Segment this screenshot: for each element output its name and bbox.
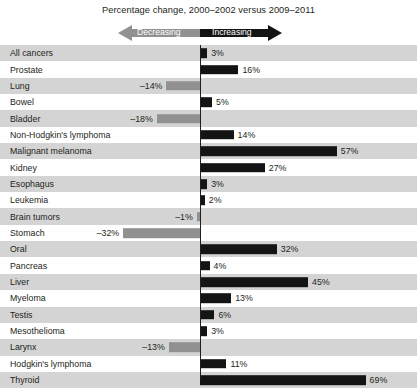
bar-positive [200, 97, 212, 107]
bar-positive [200, 245, 277, 255]
bar-negative [123, 228, 200, 238]
chart-row: Mesothelioma3% [0, 323, 417, 339]
category-label: Larynx [10, 343, 36, 352]
value-label: 69% [370, 376, 388, 385]
category-label: Brain tumors [10, 212, 60, 221]
category-label: Leukemia [10, 196, 48, 205]
value-label: 11% [230, 359, 247, 368]
value-label: 45% [312, 278, 330, 287]
category-label: Oral [10, 245, 27, 254]
category-label: Malignant melanoma [10, 147, 92, 156]
value-label: 13% [235, 294, 253, 303]
bar-positive [200, 130, 234, 140]
chart-row: All cancers3% [0, 45, 417, 61]
chart-row: Esophagus3% [0, 176, 417, 192]
value-label: 6% [218, 310, 231, 319]
chart-row: Prostate16% [0, 61, 417, 77]
category-label: Bladder [10, 114, 40, 123]
category-label: Thyroid [10, 376, 39, 385]
category-label: Hodgkin's lymphoma [10, 359, 91, 368]
category-label: Esophagus [10, 180, 54, 189]
bar-positive [200, 65, 238, 75]
chart-row: Bowel5% [0, 94, 417, 110]
chart-row: Stomach–32% [0, 225, 417, 241]
category-label: Liver [10, 278, 29, 287]
chart-row: Kidney27% [0, 159, 417, 175]
chart-row: Leukemia2% [0, 192, 417, 208]
bar-positive [200, 359, 226, 369]
category-label: Kidney [10, 163, 37, 172]
bar-positive [200, 146, 337, 156]
bar-negative [166, 81, 200, 91]
chart-title: Percentage change, 2000–2002 versus 2009… [0, 5, 417, 15]
category-label: Mesothelioma [10, 327, 65, 336]
value-label: –18% [119, 114, 153, 123]
chart-row: Bladder–18% [0, 110, 417, 126]
chart-row: Oral32% [0, 241, 417, 257]
chart-row: Pancreas4% [0, 257, 417, 273]
category-label: Prostate [10, 65, 43, 74]
category-label: Myeloma [10, 294, 46, 303]
bar-positive [200, 375, 366, 385]
percentage-change-bar-chart: Percentage change, 2000–2002 versus 2009… [0, 0, 417, 390]
value-label: 4% [214, 261, 227, 270]
category-label: Lung [10, 81, 30, 90]
category-label: Pancreas [10, 261, 47, 270]
bar-positive [200, 277, 308, 287]
value-label: 57% [341, 147, 359, 156]
bar-positive [200, 261, 210, 271]
legend-label-decreasing: Decreasing [137, 27, 180, 37]
value-label: 3% [211, 49, 224, 58]
chart-row: Larynx–13% [0, 339, 417, 355]
value-label: –1% [159, 212, 193, 221]
value-label: –32% [85, 229, 119, 238]
bar-positive [200, 310, 214, 320]
chart-row: Non-Hodgkin's lymphoma14% [0, 127, 417, 143]
value-label: 14% [238, 130, 256, 139]
chart-row: Hodgkin's lymphoma11% [0, 356, 417, 372]
value-label: 32% [281, 245, 299, 254]
value-label: 27% [269, 163, 287, 172]
value-label: –14% [128, 81, 162, 90]
category-label: Bowel [10, 98, 34, 107]
category-label: Stomach [10, 229, 45, 238]
bar-positive [200, 294, 231, 304]
bar-negative [157, 114, 200, 124]
chart-row: Myeloma13% [0, 290, 417, 306]
category-label: Non-Hodgkin's lymphoma [10, 130, 110, 139]
value-label: 3% [211, 327, 224, 336]
value-label: 3% [211, 180, 224, 189]
chart-row: Malignant melanoma57% [0, 143, 417, 159]
chart-row: Thyroid69% [0, 372, 417, 388]
chart-row: Lung–14% [0, 78, 417, 94]
category-label: Testis [10, 310, 33, 319]
chart-row: Brain tumors–1% [0, 208, 417, 224]
chart-row: Liver45% [0, 274, 417, 290]
category-label: All cancers [10, 49, 53, 58]
chart-row: Testis6% [0, 307, 417, 323]
value-label: 2% [209, 196, 222, 205]
value-label: 5% [216, 98, 229, 107]
chart-plot-area: All cancers3%Prostate16%Lung–14%Bowel5%B… [0, 45, 417, 378]
value-label: –13% [131, 343, 165, 352]
legend-label-increasing: Increasing [212, 27, 252, 37]
value-label: 16% [242, 65, 260, 74]
zero-axis-line [200, 45, 202, 378]
bar-positive [200, 163, 265, 173]
bar-negative [169, 343, 200, 353]
